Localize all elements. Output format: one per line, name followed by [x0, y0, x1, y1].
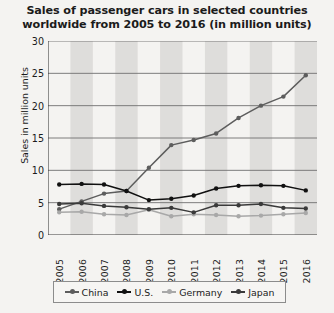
legend-marker-icon [65, 288, 79, 296]
data-point [169, 197, 173, 201]
legend-item-germany[interactable]: Germany [162, 287, 222, 298]
plot-area [48, 41, 317, 235]
data-point [124, 213, 128, 217]
legend-item-us[interactable]: U.S. [117, 287, 153, 298]
x-axis-ticks: 2005200620072008200920102011201220132014… [48, 239, 317, 283]
data-point [57, 182, 61, 186]
y-tick-label: 0 [22, 230, 44, 241]
data-point [124, 189, 128, 193]
data-point [192, 193, 196, 197]
data-point [236, 184, 240, 188]
y-tick-label: 15 [22, 133, 44, 144]
data-point [102, 191, 106, 195]
plot-svg [48, 41, 317, 235]
data-point [236, 203, 240, 207]
chart-title: Sales of passenger cars in selected coun… [12, 4, 322, 31]
legend-marker-icon [162, 288, 176, 296]
x-tick-label: 2005 [54, 259, 65, 283]
legend-marker-icon [231, 288, 245, 296]
data-point [259, 213, 263, 217]
data-point [214, 203, 218, 207]
data-point [281, 212, 285, 216]
data-point [147, 166, 151, 170]
data-point [304, 211, 308, 215]
data-point [57, 202, 61, 206]
x-tick-label: 2007 [99, 259, 110, 283]
legend-label: Germany [179, 287, 222, 298]
data-point [147, 198, 151, 202]
x-tick-label: 2012 [211, 259, 222, 283]
x-tick-label: 2010 [166, 259, 177, 283]
data-point [281, 206, 285, 210]
data-point [236, 116, 240, 120]
legend-label: Japan [248, 287, 274, 298]
x-tick-label: 2016 [301, 259, 312, 283]
data-point [259, 183, 263, 187]
data-point [304, 206, 308, 210]
data-point [259, 103, 263, 107]
y-tick-label: 30 [22, 36, 44, 47]
y-tick-label: 5 [22, 197, 44, 208]
data-point [79, 210, 83, 214]
data-point [281, 94, 285, 98]
data-point [102, 204, 106, 208]
data-point [79, 201, 83, 205]
chart-title-line-1: Sales of passenger cars in selected coun… [12, 4, 322, 18]
legend-label: U.S. [134, 287, 153, 298]
chart-legend: ChinaU.S.GermanyJapan [53, 281, 286, 303]
data-point [57, 210, 61, 214]
x-tick-label: 2014 [256, 259, 267, 283]
data-point [192, 210, 196, 214]
data-point [169, 143, 173, 147]
x-tick-label: 2006 [77, 259, 88, 283]
y-tick-label: 25 [22, 68, 44, 79]
data-point [281, 184, 285, 188]
data-point [79, 182, 83, 186]
x-tick-label: 2011 [189, 259, 200, 283]
x-tick-label: 2015 [278, 259, 289, 283]
data-point [214, 131, 218, 135]
data-point [169, 214, 173, 218]
data-point [192, 138, 196, 142]
data-point [304, 73, 308, 77]
data-point [236, 214, 240, 218]
data-point [304, 188, 308, 192]
x-tick-label: 2008 [121, 259, 132, 283]
data-point [169, 206, 173, 210]
y-axis-ticks: 051015202530 [18, 41, 44, 235]
data-point [259, 202, 263, 206]
legend-marker-icon [117, 288, 131, 296]
x-tick-label: 2009 [144, 259, 155, 283]
legend-item-china[interactable]: China [65, 287, 109, 298]
chart-title-line-2: worldwide from 2005 to 2016 (in million … [12, 18, 322, 32]
data-point [102, 182, 106, 186]
legend-label: China [82, 287, 109, 298]
data-point [124, 205, 128, 209]
chart-figure: Sales of passenger cars in selected coun… [0, 0, 334, 313]
data-point [214, 213, 218, 217]
y-tick-label: 20 [22, 100, 44, 111]
legend-item-japan[interactable]: Japan [231, 287, 274, 298]
data-point [214, 186, 218, 190]
x-tick-label: 2013 [234, 259, 245, 283]
data-point [147, 207, 151, 211]
data-point [102, 212, 106, 216]
y-tick-label: 10 [22, 165, 44, 176]
